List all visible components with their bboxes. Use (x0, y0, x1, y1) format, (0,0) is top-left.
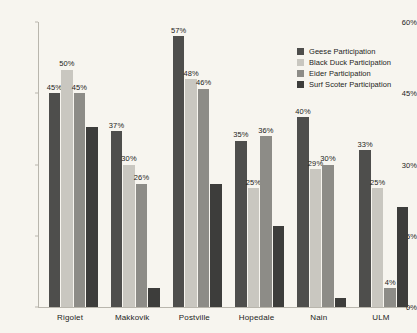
y-axis-tick-mark (35, 93, 38, 94)
bar[interactable] (310, 169, 322, 307)
y-axis-tick-mark (35, 307, 38, 308)
bar-value-label: 26% (131, 173, 153, 182)
bar[interactable] (248, 188, 260, 307)
bar[interactable] (185, 79, 197, 307)
bar-chart: 0%15%30%45%60% 45%50%45%37%30%26%57%48%4… (0, 0, 417, 333)
x-axis-line (38, 307, 412, 308)
bar[interactable] (235, 141, 247, 307)
y-axis-tick-mark (35, 164, 38, 165)
legend-swatch-icon (297, 48, 304, 55)
bar-value-label: 36% (255, 126, 277, 135)
bar[interactable] (372, 188, 384, 307)
bar[interactable] (49, 93, 61, 307)
legend-swatch-icon (297, 81, 304, 88)
bar-value-label: 45% (69, 83, 91, 92)
bar-value-label: 30% (317, 154, 339, 163)
bar-value-label: 35% (230, 130, 252, 139)
legend-item[interactable]: Surf Scoter Participation (297, 79, 391, 90)
bar-value-label: 40% (292, 107, 314, 116)
chart-legend: Geese ParticipationBlack Duck Participat… (297, 46, 391, 90)
legend-item-label: Black Duck Participation (309, 58, 391, 67)
legend-item-label: Surf Scoter Participation (309, 80, 391, 89)
x-axis-category-label: Nain (288, 313, 350, 322)
x-axis-category-label: Hopedale (226, 313, 288, 322)
bar-group: 37%30%26% (111, 22, 160, 307)
legend-swatch-icon (297, 70, 304, 77)
x-axis-category-label: Makkovik (101, 313, 163, 322)
bar[interactable] (384, 288, 396, 307)
legend-item[interactable]: Eider Participation (297, 68, 391, 79)
legend-swatch-icon (297, 59, 304, 66)
x-axis-category-label: Postville (163, 313, 225, 322)
bar[interactable] (74, 93, 86, 307)
legend-item[interactable]: Geese Participation (297, 46, 391, 57)
bar-value-label: 30% (118, 154, 140, 163)
legend-item-label: Eider Participation (309, 69, 371, 78)
legend-item-label: Geese Participation (309, 47, 375, 56)
bar[interactable] (86, 127, 98, 308)
x-axis-category-label: ULM (350, 313, 412, 322)
bar-value-label: 37% (106, 121, 128, 130)
bar[interactable] (148, 288, 160, 307)
bar-group: 57%48%46% (173, 22, 222, 307)
legend-item[interactable]: Black Duck Participation (297, 57, 391, 68)
bar[interactable] (273, 226, 285, 307)
bar[interactable] (210, 184, 222, 308)
bar-value-label: 57% (168, 26, 190, 35)
bar-value-label: 25% (367, 178, 389, 187)
bar-group: 45%50%45% (49, 22, 98, 307)
bar[interactable] (136, 184, 148, 308)
bar[interactable] (260, 136, 272, 307)
bar[interactable] (198, 89, 210, 308)
y-axis-tick-mark (35, 22, 38, 23)
x-axis-category-label: Rigolet (39, 313, 101, 322)
bar-value-label: 48% (180, 69, 202, 78)
bar-value-label: 50% (56, 59, 78, 68)
bar[interactable] (335, 298, 347, 308)
y-axis-tick-mark (35, 235, 38, 236)
bar-value-label: 46% (193, 78, 215, 87)
bar-value-label: 33% (354, 140, 376, 149)
bar[interactable] (322, 165, 334, 308)
bar-group: 35%25%36% (235, 22, 284, 307)
bar[interactable] (61, 70, 73, 308)
bar[interactable] (359, 150, 371, 307)
bar[interactable] (123, 165, 135, 308)
bar[interactable] (297, 117, 309, 307)
bar[interactable] (397, 207, 409, 307)
